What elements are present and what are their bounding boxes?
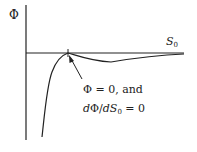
potential-diagram: Φ S0 Φ = 0, and dΦ/dS0 = 0: [0, 0, 197, 152]
x-axis-label: S0: [166, 35, 178, 49]
arrowhead-icon: [69, 55, 74, 63]
annotation-line-1: Φ = 0, and: [83, 83, 143, 96]
annotation-line-2: dΦ/dS0 = 0: [83, 102, 145, 116]
y-axis-label: Φ: [9, 8, 19, 22]
